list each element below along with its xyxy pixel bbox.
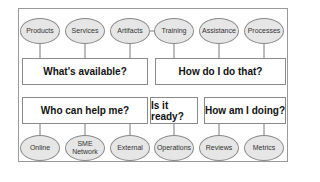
node-metrics: Metrics xyxy=(244,135,284,161)
node-training: Training xyxy=(154,18,194,44)
node-external: External xyxy=(110,135,150,161)
question-whats-available: What's available? xyxy=(22,58,148,85)
node-operations: Operations xyxy=(154,135,194,161)
question-who-can-help-me: Who can help me? xyxy=(22,97,148,124)
node-online: Online xyxy=(20,135,60,161)
node-assistance: Assistance xyxy=(199,18,239,44)
question-how-am-i-doing: How am I doing? xyxy=(204,97,286,124)
question-is-it-ready: Is it ready? xyxy=(150,97,198,124)
node-products: Products xyxy=(20,18,60,44)
node-services: Services xyxy=(65,18,105,44)
question-how-do-i-do-that: How do I do that? xyxy=(155,58,286,85)
node-reviews: Reviews xyxy=(199,135,239,161)
node-processes: Processes xyxy=(244,18,284,44)
node-sme-network: SME Network xyxy=(65,135,105,161)
node-artifacts: Artifacts xyxy=(110,18,150,44)
